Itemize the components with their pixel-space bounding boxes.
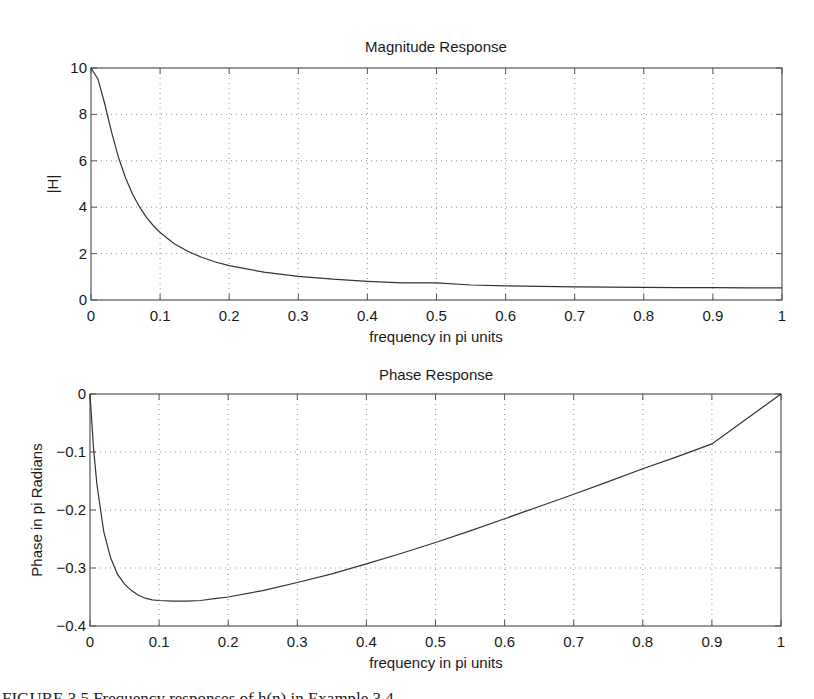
x-tick-label: 0.6 bbox=[495, 307, 516, 324]
phase-plot: Phase Response 00.10.20.30.40.50.60.70.8… bbox=[28, 366, 785, 671]
magnitude-plot: Magnitude Response 00.10.20.30.40.50.60.… bbox=[44, 38, 786, 345]
magnitude-title: Magnitude Response bbox=[365, 38, 507, 55]
y-tick-label: 10 bbox=[70, 59, 87, 76]
x-tick-label: 0.2 bbox=[219, 307, 240, 324]
x-tick-label: 0.6 bbox=[494, 633, 515, 650]
x-tick-label: 0.1 bbox=[150, 307, 171, 324]
phase-xlabel: frequency in pi units bbox=[369, 654, 502, 671]
y-tick-label: −0.4 bbox=[56, 617, 86, 634]
y-tick-label: 6 bbox=[79, 152, 87, 169]
x-tick-label: 0.5 bbox=[425, 633, 446, 650]
x-tick-label: 0.3 bbox=[288, 307, 309, 324]
phase-title: Phase Response bbox=[379, 366, 493, 383]
x-tick-label: 0.7 bbox=[564, 307, 585, 324]
x-tick-label: 0 bbox=[87, 307, 95, 324]
x-tick-label: 0.8 bbox=[633, 307, 654, 324]
figure: Magnitude Response 00.10.20.30.40.50.60.… bbox=[0, 0, 814, 699]
figure-caption: FIGURE 3.5 Frequency responses of h(n) i… bbox=[0, 690, 814, 699]
magnitude-ticks: 00.10.20.30.40.50.60.70.80.910246810 bbox=[70, 59, 786, 324]
x-tick-label: 0 bbox=[86, 633, 94, 650]
x-tick-label: 0.4 bbox=[356, 633, 377, 650]
x-tick-label: 0.7 bbox=[563, 633, 584, 650]
x-tick-label: 0.9 bbox=[702, 307, 723, 324]
figure-caption-text: FIGURE 3.5 Frequency responses of h(n) i… bbox=[0, 690, 814, 699]
x-tick-label: 1 bbox=[778, 307, 786, 324]
y-tick-label: −0.2 bbox=[56, 501, 86, 518]
magnitude-grid bbox=[91, 68, 782, 300]
x-tick-label: 1 bbox=[777, 633, 785, 650]
x-tick-label: 0.1 bbox=[149, 633, 170, 650]
phase-ticks: 00.10.20.30.40.50.60.70.80.91−0.4−0.3−0.… bbox=[56, 385, 785, 650]
phase-grid bbox=[90, 394, 781, 626]
y-tick-label: −0.3 bbox=[56, 559, 86, 576]
x-tick-label: 0.2 bbox=[218, 633, 239, 650]
y-tick-label: −0.1 bbox=[56, 443, 86, 460]
y-tick-label: 0 bbox=[78, 385, 86, 402]
x-tick-label: 0.4 bbox=[357, 307, 378, 324]
y-tick-label: 8 bbox=[79, 105, 87, 122]
magnitude-xlabel: frequency in pi units bbox=[369, 328, 502, 345]
y-tick-label: 4 bbox=[79, 198, 87, 215]
phase-ylabel: Phase in pi Radians bbox=[28, 443, 45, 576]
y-tick-label: 0 bbox=[79, 291, 87, 308]
magnitude-curve bbox=[91, 68, 782, 288]
x-tick-label: 0.9 bbox=[701, 633, 722, 650]
x-tick-label: 0.3 bbox=[287, 633, 308, 650]
x-tick-label: 0.8 bbox=[632, 633, 653, 650]
magnitude-ylabel: |H| bbox=[44, 175, 61, 194]
y-tick-label: 2 bbox=[79, 245, 87, 262]
phase-curve bbox=[90, 394, 781, 601]
x-tick-label: 0.5 bbox=[426, 307, 447, 324]
